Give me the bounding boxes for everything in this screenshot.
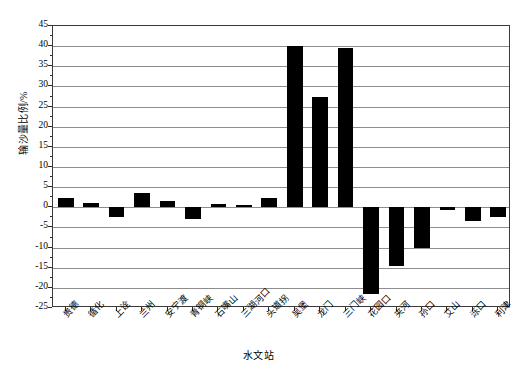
gridline <box>53 227 509 228</box>
y-axis-tick-label: 45 <box>6 20 48 30</box>
plot-area <box>52 25 510 307</box>
gridline <box>53 107 509 108</box>
gridline <box>53 147 509 148</box>
gridline <box>53 127 509 128</box>
y-axis-tick-label: 35 <box>6 61 48 71</box>
bar <box>236 205 252 207</box>
bar <box>312 97 328 208</box>
bar <box>363 207 379 294</box>
bar <box>83 203 99 207</box>
bar <box>185 207 201 219</box>
y-axis-tick-label: 25 <box>6 101 48 111</box>
gridline <box>53 86 509 87</box>
bar <box>109 207 125 216</box>
bar <box>160 201 176 207</box>
y-axis-tick-label: 5 <box>6 181 48 191</box>
y-axis-tick-label: -25 <box>6 302 48 312</box>
y-axis-tick-label: 30 <box>6 81 48 91</box>
y-axis-tick-mark <box>48 307 52 308</box>
gridline <box>53 187 509 188</box>
y-axis-tick-label: 20 <box>6 121 48 131</box>
y-axis-tick-label: 10 <box>6 161 48 171</box>
y-axis-tick-label: -20 <box>6 282 48 292</box>
gridline <box>53 66 509 67</box>
bar <box>134 193 150 207</box>
bar <box>338 48 354 208</box>
bar <box>211 204 227 207</box>
y-axis-tick-label: 40 <box>6 40 48 50</box>
gridline <box>53 46 509 47</box>
gridline <box>53 167 509 168</box>
bar <box>287 46 303 207</box>
x-axis-title: 水文站 <box>0 351 517 361</box>
bar <box>490 207 506 217</box>
y-axis-tick-label: 0 <box>6 202 48 212</box>
y-axis-tick-label: -10 <box>6 242 48 252</box>
y-axis-tick-group: 454035302520151050-5-10-15-20-25 <box>0 25 48 307</box>
gridline <box>53 248 509 249</box>
bar <box>440 207 456 210</box>
sediment-ratio-bar-chart: 输沙量比例/% 454035302520151050-5-10-15-20-25… <box>0 0 517 377</box>
bar <box>414 207 430 247</box>
bar <box>261 198 277 207</box>
y-axis-tick-label: 15 <box>6 141 48 151</box>
bar <box>389 207 405 265</box>
y-axis-tick-label: -15 <box>6 262 48 272</box>
gridline <box>53 288 509 289</box>
bar <box>58 198 74 207</box>
bar <box>465 207 481 221</box>
y-axis-tick-label: -5 <box>6 222 48 232</box>
gridline <box>53 268 509 269</box>
